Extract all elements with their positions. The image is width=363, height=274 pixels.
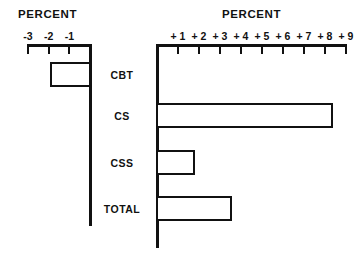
right-tick-5 [261,44,263,54]
left-tick-label--2: -2 [44,30,53,42]
right-tick-label-7: + 7 [297,30,312,42]
left-tick--3 [27,44,29,54]
bar-cbt [50,62,92,87]
bar-total [156,196,232,221]
right-tick-8 [324,44,326,54]
bar-cs [156,103,333,128]
right-tick-label-3: + 3 [213,30,228,42]
category-label-css: CSS [110,157,133,169]
right-tick-2 [198,44,200,54]
right-tick-4 [240,44,242,54]
right-tick-label-9: + 9 [339,30,354,42]
category-label-cbt: CBT [110,69,133,81]
bar-css [156,150,195,175]
left-tick-label--1: -1 [65,30,74,42]
right-tick-label-6: + 6 [276,30,291,42]
right-axis-line [156,44,347,47]
left-axis-title: PERCENT [18,8,77,20]
left-tick--1 [68,44,70,54]
left-tick--2 [48,44,50,54]
right-tick-9 [345,44,347,54]
right-tick-label-1: + 1 [171,30,186,42]
category-label-cs: CS [114,110,130,122]
category-label-total: TOTAL [104,203,141,215]
right-tick-label-8: + 8 [318,30,333,42]
right-tick-3 [219,44,221,54]
right-axis-title: PERCENT [222,8,281,20]
right-tick-label-5: + 5 [255,30,270,42]
left-axis-line [27,44,91,47]
right-tick-label-2: + 2 [192,30,207,42]
right-tick-6 [282,44,284,54]
right-tick-1 [177,44,179,54]
percent-change-bar-chart: PERCENT PERCENT -3-2-1 + 1+ 2+ 3+ 4+ 5+ … [0,0,363,274]
right-tick-label-4: + 4 [234,30,249,42]
right-tick-7 [303,44,305,54]
left-tick-label--3: -3 [23,30,32,42]
